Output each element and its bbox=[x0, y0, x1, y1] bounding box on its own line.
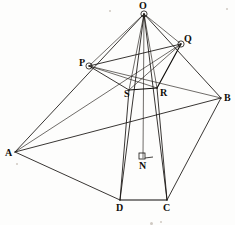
edge-B-C bbox=[167, 98, 221, 200]
vertex-label-n: N bbox=[139, 161, 146, 171]
vertex-label-q: Q bbox=[184, 34, 192, 44]
edge-O-C bbox=[144, 14, 167, 200]
edge-P-R bbox=[89, 66, 157, 88]
edge-O-B bbox=[144, 14, 221, 98]
vertex-label-a: A bbox=[5, 148, 12, 158]
vertex-label-r: R bbox=[160, 88, 167, 98]
figure-canvas bbox=[0, 0, 235, 225]
edge-O-A bbox=[15, 14, 144, 152]
paper-speck bbox=[160, 221, 162, 223]
vertex-label-b: B bbox=[224, 93, 231, 103]
vertex-label-s: S bbox=[124, 89, 130, 99]
edge-O-N bbox=[143, 14, 144, 158]
paper-speck bbox=[16, 163, 18, 165]
edge-A-B bbox=[15, 98, 221, 152]
edge-S-P bbox=[89, 66, 129, 90]
vertex-label-c: C bbox=[163, 203, 170, 213]
edge-R-C bbox=[157, 88, 167, 200]
edge-P-Q bbox=[89, 44, 181, 66]
edge-R-S bbox=[129, 88, 157, 90]
edge-A-Q bbox=[15, 44, 181, 152]
paper-speck bbox=[226, 8, 228, 10]
paper-speck bbox=[150, 222, 153, 225]
edge-Q-R bbox=[157, 44, 181, 88]
edge-P-B bbox=[89, 66, 221, 98]
right-angle-marker-N bbox=[139, 153, 145, 159]
geometry-figure: OQPRSBANDC bbox=[0, 0, 235, 225]
paper-speck bbox=[109, 10, 111, 12]
edge-O-P bbox=[89, 14, 144, 66]
right-angle-tick bbox=[145, 157, 153, 158]
edge-A-D bbox=[15, 152, 120, 200]
vertex-label-d: D bbox=[116, 203, 123, 213]
edge-S-D bbox=[120, 90, 129, 200]
edge-O-D bbox=[120, 14, 144, 200]
vertex-label-p: P bbox=[79, 58, 85, 68]
edge-O-Q bbox=[144, 14, 181, 44]
vertex-label-o: O bbox=[139, 1, 147, 11]
